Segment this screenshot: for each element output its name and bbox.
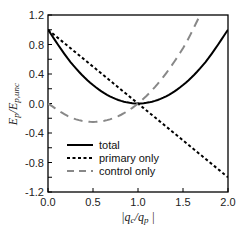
y-tick-label: 0.8 [29,39,44,51]
legend-label-primary-only: primary only [99,152,159,164]
y-tick-label: -0.4 [25,127,44,139]
x-tick-label: 1.0 [130,196,145,208]
x-axis-label: |qc/qp | [121,210,154,225]
y-tick-label: 0.0 [29,98,44,110]
y-axis-label: Ep/Ep,unc [6,83,21,126]
y-tick-label: 1.2 [29,9,44,21]
x-tick-label: 0.0 [40,196,55,208]
x-tick-label: 1.5 [175,196,190,208]
legend-label-total: total [99,139,120,151]
y-tick-label: 0.4 [29,68,44,80]
legend-label-control-only: control only [99,165,156,177]
x-tick-label: 2.0 [220,196,235,208]
line-chart: 1.20.80.40.0-0.4-0.8-1.2 0.00.51.01.52.0… [0,0,241,229]
x-tick-label: 0.5 [85,196,100,208]
y-tick-label: -0.8 [25,157,44,169]
